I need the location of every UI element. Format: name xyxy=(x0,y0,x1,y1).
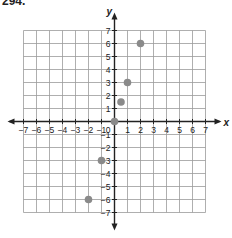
y-tick-label: 3 xyxy=(106,78,111,88)
data-point xyxy=(85,196,93,204)
arrow-down-icon xyxy=(112,224,118,231)
x-tick-label: −5 xyxy=(45,125,55,135)
y-tick-label: −7 xyxy=(101,208,111,218)
y-tick-label: −6 xyxy=(101,195,111,205)
data-point xyxy=(117,98,125,106)
y-tick-label: 7 xyxy=(106,26,111,36)
x-tick-label: −2 xyxy=(84,125,94,135)
x-tick-label: 1 xyxy=(125,125,130,135)
data-point xyxy=(137,40,145,48)
y-tick-label: −4 xyxy=(101,169,111,179)
data-point xyxy=(111,118,119,126)
y-tick-label: 5 xyxy=(106,52,111,62)
arrow-left-icon xyxy=(8,119,15,125)
x-tick-label: 6 xyxy=(190,125,195,135)
x-tick-label: −4 xyxy=(58,125,68,135)
y-axis-label: y xyxy=(106,6,113,17)
arrow-up-icon xyxy=(112,13,118,20)
x-tick-label: −3 xyxy=(71,125,81,135)
x-tick-label: −6 xyxy=(32,125,42,135)
data-point xyxy=(98,157,106,165)
x-tick-label: 5 xyxy=(177,125,182,135)
x-axis-label: x xyxy=(223,117,230,128)
x-tick-label: 7 xyxy=(203,125,208,135)
y-tick-label: −2 xyxy=(101,143,111,153)
y-tick-label: 2 xyxy=(106,91,111,101)
arrow-right-icon xyxy=(215,119,222,125)
data-point xyxy=(124,79,132,87)
y-tick-label: −5 xyxy=(101,182,111,192)
x-tick-label: −7 xyxy=(19,125,29,135)
x-tick-label: 4 xyxy=(164,125,169,135)
origin-label: 0 xyxy=(106,125,111,135)
x-tick-label: 3 xyxy=(151,125,156,135)
y-tick-label: 1 xyxy=(106,104,111,114)
y-tick-label: 4 xyxy=(106,65,111,75)
coordinate-plane: xy−7−6−5−4−3−2−112345677654321−1−2−3−4−5… xyxy=(0,0,232,238)
y-tick-label: 6 xyxy=(106,39,111,49)
x-tick-label: 2 xyxy=(138,125,143,135)
